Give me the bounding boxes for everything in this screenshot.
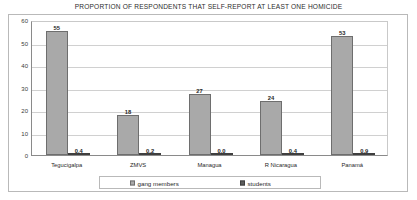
bar-gang-members: 18 — [117, 115, 139, 156]
bar-students: 0,2 — [139, 153, 161, 155]
x-axis-category-label: Panamá — [342, 162, 364, 168]
legend-swatch-icon — [240, 180, 245, 185]
y-axis-tick-label: 40 — [21, 63, 28, 69]
bar-value-label: 24 — [268, 95, 274, 101]
legend-label: students — [248, 179, 271, 186]
bar-gang-members: 53 — [331, 36, 353, 155]
chart-title: PROPORTION OF RESPONDENTS THAT SELF-REPO… — [0, 3, 417, 10]
x-axis-category-label: Tegucigalpa — [51, 162, 82, 168]
legend-label: gang members — [138, 179, 179, 186]
bar-value-label: 0,2 — [146, 148, 154, 154]
bar-value-label: 0,4 — [75, 148, 83, 154]
legend-item: gang members — [130, 179, 179, 186]
bar-gang-members: 55 — [46, 31, 68, 155]
y-axis-tick-label: 20 — [21, 108, 28, 114]
plot-area: 550,4180,2270,0240,4530,9 — [31, 21, 388, 156]
chart-frame: 6050403020100 % 550,4180,2270,0240,4530,… — [8, 14, 408, 192]
chart-legend: gang membersstudents — [99, 176, 321, 189]
bar-gang-members: 27 — [189, 94, 211, 155]
x-axis-category-label: ZMVS — [130, 162, 146, 168]
x-axis-category-label: R Nicaragua — [265, 162, 297, 168]
chart-container: PROPORTION OF RESPONDENTS THAT SELF-REPO… — [0, 0, 417, 200]
y-axis-tick-label: 60 — [21, 18, 28, 24]
bar-value-label: 18 — [125, 109, 131, 115]
y-axis-tick-label: 50 — [21, 41, 28, 47]
bar-value-label: 0,4 — [289, 148, 297, 154]
y-axis-tick-label: 10 — [21, 131, 28, 137]
legend-swatch-icon — [130, 180, 135, 185]
y-axis-tick-label: 30 — [21, 86, 28, 92]
bar-gang-members: 24 — [260, 101, 282, 155]
bar-value-label: 53 — [339, 30, 345, 36]
bar-value-label: 55 — [53, 25, 59, 31]
y-axis-tick-labels: 6050403020100 — [9, 21, 28, 156]
x-axis-category-label: Managua — [197, 162, 221, 168]
bar-students: 0,4 — [68, 153, 90, 155]
legend-item: students — [240, 179, 271, 186]
bar-students: 0,9 — [353, 153, 375, 155]
bar-students: 0,4 — [282, 153, 304, 155]
bar-students: 0,0 — [211, 153, 233, 155]
bar-value-label: 0,0 — [217, 148, 225, 154]
bar-value-label: 27 — [196, 88, 202, 94]
y-axis-tick-label: 0 — [25, 153, 28, 159]
bar-value-label: 0,9 — [360, 148, 368, 154]
